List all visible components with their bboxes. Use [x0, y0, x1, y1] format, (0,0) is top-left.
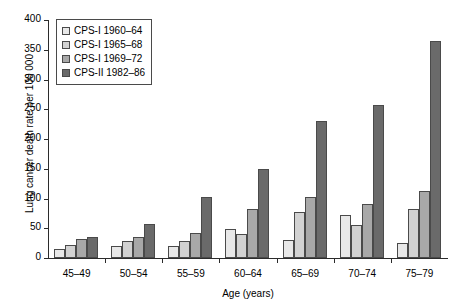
y-tick-label: 50	[30, 221, 41, 233]
y-axis-tick: 150	[0, 169, 48, 170]
lung-cancer-death-rate-bar-chart: Lung cancer death rate per 100 000 05010…	[0, 0, 454, 306]
bar-group	[168, 20, 212, 258]
chart-legend: CPS-I 1960–64CPS-I 1965–68CPS-I 1969–72C…	[56, 19, 152, 85]
y-tick-label: 200	[24, 132, 41, 144]
bar	[283, 240, 294, 258]
x-axis-group-label: 75–79	[391, 268, 448, 280]
y-axis-tick: 100	[0, 199, 48, 200]
y-tick-label: 150	[24, 162, 41, 174]
bar	[305, 197, 316, 258]
legend-item-label: CPS-I 1965–68	[74, 39, 142, 51]
legend-item: CPS-I 1965–68	[62, 38, 145, 52]
y-axis-tick: 250	[0, 109, 48, 110]
legend-item-label: CPS-II 1982–86	[74, 67, 145, 79]
legend-item: CPS-I 1960–64	[62, 24, 145, 38]
x-axis-group-label: 70–74	[334, 268, 391, 280]
bar	[168, 246, 179, 258]
bar	[258, 169, 269, 258]
bar	[65, 245, 76, 258]
y-tick-label: 350	[24, 43, 41, 55]
bar	[87, 237, 98, 258]
bar-group	[397, 20, 441, 258]
y-tick-label: 250	[24, 102, 41, 114]
legend-item: CPS-II 1982–86	[62, 66, 145, 80]
y-axis-tick: 300	[0, 80, 48, 81]
x-axis-group-label: 55–59	[162, 268, 219, 280]
bar	[179, 241, 190, 258]
legend-swatch-icon	[62, 55, 70, 63]
y-tick-label: 400	[24, 13, 41, 25]
x-tick-mark	[334, 259, 335, 263]
bar	[419, 191, 430, 258]
y-axis-tick: 350	[0, 50, 48, 51]
bar	[408, 209, 419, 258]
bar	[430, 41, 441, 258]
y-tick-mark	[44, 258, 48, 259]
bar	[111, 246, 122, 258]
x-axis-group-label: 50–54	[105, 268, 162, 280]
bar	[247, 209, 258, 258]
x-axis-group-label: 45–49	[48, 268, 105, 280]
x-tick-mark	[105, 259, 106, 263]
y-tick-label: 0	[35, 251, 41, 263]
x-tick-mark	[277, 259, 278, 263]
bar	[54, 249, 65, 258]
bar-group	[340, 20, 384, 258]
bar	[190, 233, 201, 258]
bar	[236, 234, 247, 258]
bar	[201, 197, 212, 258]
legend-item-label: CPS-I 1969–72	[74, 53, 142, 65]
bar	[144, 224, 155, 258]
bar	[316, 121, 327, 258]
y-axis-tick: 0	[0, 258, 48, 259]
y-axis-tick: 50	[0, 228, 48, 229]
x-axis-title: Age (years)	[48, 288, 448, 300]
legend-swatch-icon	[62, 27, 70, 35]
bar	[133, 237, 144, 258]
y-tick-label: 100	[24, 192, 41, 204]
legend-item-label: CPS-I 1960–64	[74, 25, 142, 37]
bar-group	[283, 20, 327, 258]
y-tick-label: 300	[24, 73, 41, 85]
legend-swatch-icon	[62, 41, 70, 49]
bar	[340, 215, 351, 258]
x-axis-group-label: 60–64	[219, 268, 276, 280]
legend-item: CPS-I 1969–72	[62, 52, 145, 66]
x-axis-group-label: 65–69	[277, 268, 334, 280]
x-tick-mark	[162, 259, 163, 263]
y-axis-tick: 400	[0, 20, 48, 21]
bar	[362, 204, 373, 258]
bar	[122, 241, 133, 258]
bar	[373, 105, 384, 258]
bar	[294, 212, 305, 258]
bar	[76, 239, 87, 258]
x-tick-mark	[219, 259, 220, 263]
bar-group	[225, 20, 269, 258]
x-tick-mark	[391, 259, 392, 263]
bar	[225, 229, 236, 258]
bar	[351, 225, 362, 258]
bar	[397, 243, 408, 258]
legend-swatch-icon	[62, 69, 70, 77]
x-axis-line	[48, 258, 448, 259]
y-axis-tick: 200	[0, 139, 48, 140]
